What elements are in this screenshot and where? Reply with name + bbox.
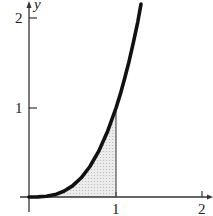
- y-tick-label-1: 1: [15, 100, 23, 116]
- x-tick-label-2: 2: [198, 201, 206, 216]
- x-tick-label-1: 1: [112, 201, 120, 216]
- curve: [29, 4, 141, 197]
- y-tick-label-2: 2: [15, 10, 23, 26]
- x-axis-arrow-icon: [207, 195, 213, 200]
- y-axis-arrow-icon: [27, 1, 32, 8]
- function-graph: 1 2 1 2 y: [0, 0, 213, 216]
- y-axis-label: y: [32, 0, 41, 12]
